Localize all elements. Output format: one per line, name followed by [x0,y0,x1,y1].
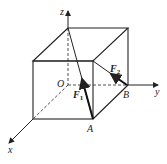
f1-label: F1 [72,89,84,102]
point-b-label: B [123,89,129,100]
force-f1 [68,28,93,119]
origin-label: O [57,78,64,89]
z-axis-label: z [59,6,64,17]
point-a-label: A [86,123,94,134]
x-axis-label: x [7,144,13,155]
cube-diagram: z y x O A B F1 F2 [0,0,167,164]
x-axis [9,85,68,143]
y-axis-label: y [154,86,160,97]
